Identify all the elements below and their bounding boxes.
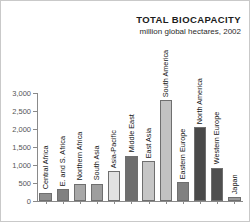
bar-label: Western Europe xyxy=(213,112,220,165)
chart-frame: TOTAL BIOCAPACITY million global hectare… xyxy=(0,0,250,222)
y-axis-tick-label: 500 xyxy=(1,179,31,188)
y-axis-tick-label: 1,500 xyxy=(1,143,31,152)
x-axis-tick xyxy=(46,201,47,204)
bar-label: Middle East xyxy=(127,115,134,153)
x-axis-tick xyxy=(149,201,150,204)
bar-label: South Asia xyxy=(93,146,100,181)
x-axis-tick xyxy=(234,201,235,204)
chart-title: TOTAL BIOCAPACITY xyxy=(31,14,241,25)
bar-north-america[interactable] xyxy=(194,127,206,201)
x-axis-tick xyxy=(97,201,98,204)
x-axis-tick xyxy=(114,201,115,204)
y-axis-tick-label: 1,000 xyxy=(1,161,31,170)
x-axis-tick xyxy=(80,201,81,204)
x-axis-tick xyxy=(217,201,218,204)
y-axis-tick-label: 3,000 xyxy=(1,89,31,98)
bar-label: Central Africa xyxy=(41,146,48,190)
x-axis-tick xyxy=(131,201,132,204)
chart-header: TOTAL BIOCAPACITY million global hectare… xyxy=(31,14,241,37)
bar-south-asia[interactable] xyxy=(91,184,103,201)
bar-label: Japan xyxy=(230,175,237,195)
bar-label: North America xyxy=(196,78,203,124)
x-axis-tick xyxy=(63,201,64,204)
bar-eastern-europe[interactable] xyxy=(177,182,189,201)
x-axis-tick xyxy=(183,201,184,204)
plot-area: Central AfricaE. and S. AfricaNorthern A… xyxy=(37,93,243,201)
bar-e-and-s-africa[interactable] xyxy=(57,189,69,201)
bar-central-africa[interactable] xyxy=(39,193,51,201)
bar-japan[interactable] xyxy=(228,197,240,201)
y-axis-tick xyxy=(33,201,38,202)
x-axis-tick xyxy=(166,201,167,204)
x-axis-line xyxy=(37,201,243,202)
bar-label: South America xyxy=(162,50,169,97)
bar-northern-africa[interactable] xyxy=(74,184,86,201)
bar-label: East Asia xyxy=(144,128,151,158)
bar-south-america[interactable] xyxy=(160,100,172,201)
bar-middle-east[interactable] xyxy=(125,156,137,201)
bar-asia-pacific[interactable] xyxy=(108,171,120,201)
y-axis-tick-label: 2,500 xyxy=(1,107,31,116)
y-axis-tick-label: 2,000 xyxy=(1,125,31,134)
y-axis-tick-label: 0 xyxy=(1,197,31,206)
bar-label: Eastern Europe xyxy=(179,128,186,179)
bar-east-asia[interactable] xyxy=(142,161,154,201)
bar-label: E. and S. Africa xyxy=(59,136,66,186)
bar-label: Asia-Pacific xyxy=(110,130,117,168)
bar-western-europe[interactable] xyxy=(211,168,223,201)
chart-subtitle: million global hectares, 2002 xyxy=(31,26,241,37)
bar-label: Northern Africa xyxy=(76,132,83,181)
x-axis-tick xyxy=(200,201,201,204)
